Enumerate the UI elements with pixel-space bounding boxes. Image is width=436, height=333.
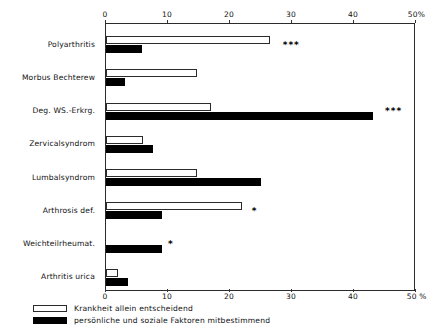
- x-tick-label: 10: [162, 292, 172, 301]
- category-label-2: Deg. WS.-Erkrg.: [33, 106, 95, 115]
- x-tick-label: 40: [348, 10, 358, 19]
- x-tick-label: 50 %: [407, 292, 427, 301]
- x-axis-top: 01020304050%: [105, 10, 415, 22]
- bar-light-5: [106, 202, 242, 210]
- legend-swatch-light: [33, 305, 67, 312]
- chart-legend: Krankheit allein entscheidendpersönliche…: [33, 303, 363, 327]
- x-tick-mark: [105, 289, 106, 292]
- x-tick-mark: [353, 289, 354, 292]
- x-tick-label: 50%: [408, 10, 425, 19]
- bars-layer: ********: [106, 24, 414, 290]
- x-tick-label: 20: [224, 10, 234, 19]
- x-tick-mark: [415, 20, 416, 23]
- x-tick-label: 0: [103, 292, 108, 301]
- legend-swatch-dark: [33, 317, 67, 324]
- bar-dark-6: [106, 245, 162, 253]
- bar-dark-1: [106, 78, 125, 86]
- category-label-5: Arthrosis def.: [43, 205, 95, 214]
- x-tick-label: 0: [103, 10, 108, 19]
- bar-light-7: [106, 269, 118, 277]
- legend-label: Krankheit allein entscheidend: [74, 304, 193, 313]
- bar-chart: 01020304050% PolyarthritisMorbus Bechter…: [0, 0, 436, 333]
- x-tick-mark: [167, 289, 168, 292]
- y-axis-category-labels: PolyarthritisMorbus BechterewDeg. WS.-Er…: [0, 23, 101, 291]
- x-tick-label: 30: [286, 10, 296, 19]
- bar-dark-3: [106, 145, 153, 153]
- bar-dark-5: [106, 211, 162, 219]
- category-label-4: Lumbalsyndrom: [32, 172, 95, 181]
- category-label-0: Polyarthritis: [48, 39, 95, 48]
- significance-marker-2: *: [252, 206, 258, 216]
- legend-item-1: persönliche und soziale Faktoren mitbest…: [33, 315, 363, 326]
- x-tick-label: 30: [286, 292, 296, 301]
- legend-item-0: Krankheit allein entscheidend: [33, 303, 363, 314]
- bar-dark-0: [106, 45, 142, 53]
- bar-dark-4: [106, 178, 261, 186]
- bar-light-3: [106, 136, 143, 144]
- category-label-3: Zervicalsyndrom: [29, 139, 95, 148]
- category-label-6: Weichteilrheumat.: [23, 239, 95, 248]
- x-tick-label: 10: [162, 10, 172, 19]
- x-tick-mark: [291, 289, 292, 292]
- category-label-1: Morbus Bechterew: [22, 72, 95, 81]
- x-tick-mark: [415, 289, 416, 292]
- bar-light-0: [106, 36, 270, 44]
- x-tick-label: 40: [348, 292, 358, 301]
- bar-dark-7: [106, 278, 128, 286]
- significance-marker-3: *: [168, 239, 174, 249]
- significance-marker-1: ***: [385, 106, 402, 116]
- bar-light-4: [106, 169, 197, 177]
- category-label-7: Arthritis urica: [41, 272, 95, 281]
- bar-light-2: [106, 103, 211, 111]
- significance-marker-0: ***: [283, 40, 300, 50]
- x-tick-label: 20: [224, 292, 234, 301]
- x-tick-mark: [229, 289, 230, 292]
- legend-label: persönliche und soziale Faktoren mitbest…: [74, 316, 270, 325]
- bar-dark-2: [106, 112, 373, 120]
- bar-light-1: [106, 69, 197, 77]
